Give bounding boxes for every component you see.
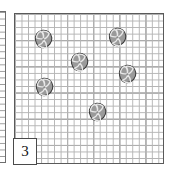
clue-box[interactable]: 3 [13,138,37,165]
clue-value: 3 [21,144,29,159]
shell-icon[interactable] [34,77,54,97]
shell-icon[interactable] [69,52,89,72]
shell-icon[interactable] [87,102,107,122]
shell-icon[interactable] [117,64,137,84]
shell-icon[interactable] [107,27,127,47]
adjacent-panel-clipped [0,11,6,163]
shell-icon[interactable] [33,29,53,49]
puzzle-canvas: 3 [0,0,171,174]
